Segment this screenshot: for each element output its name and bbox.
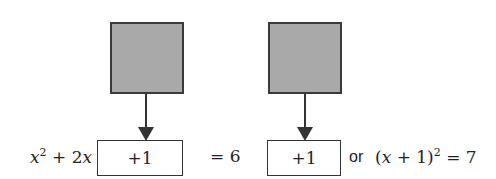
plus-one-box-left: +1: [97, 140, 183, 176]
var-x: x: [30, 147, 40, 167]
plus-1-close: + 1): [391, 147, 434, 167]
exp: 2: [434, 146, 441, 159]
square-left: [110, 22, 184, 94]
equals-six: = 6: [210, 146, 240, 166]
exp: 2: [40, 146, 47, 159]
plus-one-box-right: +1: [267, 140, 341, 176]
var-x2: x: [82, 147, 92, 167]
arrow-right-head: [297, 127, 313, 141]
plus-2: + 2: [47, 147, 83, 167]
square-right: [268, 22, 342, 94]
right-expression: (x + 1)2 = 7: [375, 146, 477, 167]
arrow-left-head: [138, 127, 154, 141]
equals-seven: = 7: [441, 147, 477, 167]
paren-open: (: [375, 147, 382, 167]
left-expression: x2 + 2x: [30, 146, 92, 167]
or-label: or: [349, 148, 363, 166]
var-x: x: [382, 147, 392, 167]
arrow-right-line: [304, 94, 306, 128]
arrow-left-line: [145, 94, 147, 128]
